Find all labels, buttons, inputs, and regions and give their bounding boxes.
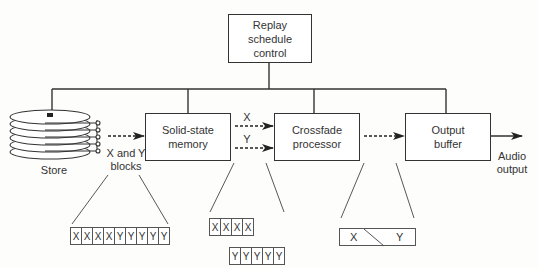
memory-y-sequence: Y Y Y Y Y <box>229 247 285 265</box>
replay-schedule-control-block: Replay schedule control <box>228 14 312 63</box>
memory-x-sequence: X X X X <box>209 218 254 236</box>
block-cell: X <box>242 218 254 236</box>
crossfade-processor-block: Crossfade processor <box>274 113 360 161</box>
y-path-label: Y <box>241 133 253 146</box>
solid-state-memory-block: Solid-state memory <box>145 113 231 161</box>
crossfade-x-label: X <box>350 231 357 243</box>
crossfade-y-label: Y <box>396 231 403 243</box>
buffer-line-1: Output <box>431 123 464 137</box>
block-cell: Y <box>273 247 285 265</box>
audio-output-label: Audio output <box>492 150 532 176</box>
store-block-sequence: X X X X Y Y Y Y Y <box>70 227 170 245</box>
crossfade-line-2: processor <box>292 137 342 151</box>
control-line-2: schedule <box>248 32 292 46</box>
x-path-label: X <box>241 111 253 124</box>
replay-crossfade-diagram: Replay schedule control Solid-state memo… <box>0 0 538 268</box>
control-line-3: control <box>248 46 292 60</box>
output-buffer-block: Output buffer <box>405 113 491 161</box>
store-label: Store <box>34 164 74 177</box>
control-bus <box>52 62 446 114</box>
xy-blocks-line-2: blocks <box>101 160 151 173</box>
memory-line-1: Solid-state <box>162 123 214 137</box>
crossfade-line-1: Crossfade <box>292 123 342 137</box>
audio-output-line-1: Audio <box>492 150 532 163</box>
xy-blocks-line-1: X and Y <box>101 147 151 160</box>
audio-output-line-2: output <box>492 163 532 176</box>
disk-stack-icon <box>10 110 100 159</box>
xy-blocks-label: X and Y blocks <box>101 147 151 173</box>
memory-line-2: memory <box>162 137 214 151</box>
crossfade-result-block: X Y <box>339 228 416 246</box>
control-line-1: Replay <box>248 18 292 32</box>
block-cell: Y <box>158 227 170 245</box>
buffer-line-2: buffer <box>431 137 464 151</box>
